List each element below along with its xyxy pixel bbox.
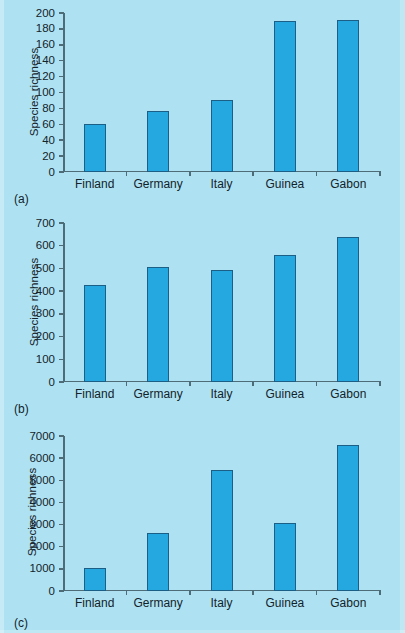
x-category-label-b-gabon: Gabon: [330, 388, 366, 400]
y-tick-b-3: [59, 313, 64, 315]
y-tick-label-c-7: 7000: [29, 430, 55, 442]
y-tick-a-2: [59, 139, 64, 141]
y-tick-label-a-4: 80: [42, 103, 55, 115]
bar-b-gabon: [337, 237, 359, 382]
x-category-label-a-guinea: Guinea: [266, 178, 305, 190]
x-category-label-c-gabon: Gabon: [330, 597, 366, 609]
x-tick-a-2: [252, 171, 254, 176]
y-tick-label-c-4: 4000: [29, 497, 55, 509]
x-category-label-a-germany: Germany: [133, 178, 182, 190]
x-category-label-c-germany: Germany: [133, 597, 182, 609]
y-tick-label-c-2: 2000: [29, 541, 55, 553]
x-tick-a-0: [126, 171, 128, 176]
y-tick-label-a-7: 140: [36, 55, 55, 67]
y-tick-b-4: [59, 290, 64, 292]
y-tick-label-c-5: 5000: [29, 475, 55, 487]
bar-a-italy: [211, 100, 233, 172]
y-tick-b-0: [59, 381, 64, 383]
figure-species-richness: Species richness 02040608010012014016018…: [0, 0, 405, 633]
y-tick-label-a-8: 160: [36, 39, 55, 51]
y-tick-label-a-3: 60: [42, 119, 55, 131]
x-tick-b-1: [189, 381, 191, 386]
y-tick-label-a-1: 20: [42, 150, 55, 162]
x-tick-b-4: [379, 381, 381, 386]
bar-c-finland: [84, 568, 106, 591]
y-tick-c-5: [59, 480, 64, 482]
y-tick-b-7: [59, 222, 64, 224]
panel-tag-b: (b): [14, 402, 29, 416]
chart-panel-a: Species richness 02040608010012014016018…: [0, 0, 405, 210]
x-category-label-b-germany: Germany: [133, 388, 182, 400]
bar-c-gabon: [337, 445, 359, 591]
y-tick-a-8: [59, 44, 64, 46]
y-tick-c-2: [59, 546, 64, 548]
x-tick-c-2: [252, 590, 254, 595]
y-tick-label-a-9: 180: [36, 23, 55, 35]
y-tick-label-b-6: 600: [36, 240, 55, 252]
bar-c-guinea: [274, 523, 296, 591]
y-tick-b-1: [59, 359, 64, 361]
x-category-label-c-guinea: Guinea: [266, 597, 305, 609]
x-category-label-b-italy: Italy: [210, 388, 232, 400]
y-tick-label-c-6: 6000: [29, 452, 55, 464]
y-tick-label-a-5: 100: [36, 87, 55, 99]
y-tick-b-6: [59, 245, 64, 247]
y-tick-label-c-3: 3000: [29, 519, 55, 531]
y-tick-b-5: [59, 268, 64, 270]
bar-b-finland: [84, 285, 106, 382]
y-tick-c-4: [59, 502, 64, 504]
y-tick-a-1: [59, 155, 64, 157]
x-category-label-b-finland: Finland: [75, 388, 114, 400]
x-category-label-a-gabon: Gabon: [330, 178, 366, 190]
bar-a-guinea: [274, 21, 296, 172]
bar-c-italy: [211, 470, 233, 591]
plot-area-b: 0100200300400500600700FinlandGermanyItal…: [63, 223, 380, 382]
x-tick-c-3: [316, 590, 318, 595]
y-tick-label-a-6: 120: [36, 71, 55, 83]
x-category-label-a-finland: Finland: [75, 178, 114, 190]
bar-b-germany: [147, 267, 169, 382]
chart-panel-c: Species richness 01000200030004000500060…: [0, 420, 405, 633]
bar-c-germany: [147, 533, 169, 591]
y-tick-a-3: [59, 124, 64, 126]
y-tick-a-10: [59, 12, 64, 14]
y-tick-label-a-2: 40: [42, 134, 55, 146]
y-tick-b-2: [59, 336, 64, 338]
y-tick-c-3: [59, 524, 64, 526]
bar-a-finland: [84, 124, 106, 172]
x-category-label-c-italy: Italy: [210, 597, 232, 609]
x-tick-a-3: [316, 171, 318, 176]
chart-panel-b: Species richness 0100200300400500600700F…: [0, 210, 405, 420]
x-tick-a-1: [189, 171, 191, 176]
y-tick-label-c-1: 1000: [29, 563, 55, 575]
bar-a-germany: [147, 111, 169, 172]
y-tick-a-7: [59, 60, 64, 62]
y-tick-label-b-1: 100: [36, 354, 55, 366]
y-tick-c-7: [59, 435, 64, 437]
y-tick-a-9: [59, 28, 64, 30]
x-tick-b-2: [252, 381, 254, 386]
x-tick-b-0: [126, 381, 128, 386]
panel-tag-c: (c): [14, 616, 28, 630]
plot-area-a: 020406080100120140160180200FinlandGerman…: [63, 13, 380, 172]
x-tick-b-3: [316, 381, 318, 386]
x-tick-c-4: [379, 590, 381, 595]
bar-b-guinea: [274, 255, 296, 382]
y-tick-c-0: [59, 590, 64, 592]
axes-b: 0100200300400500600700FinlandGermanyItal…: [63, 223, 380, 382]
panel-tag-a: (a): [14, 192, 29, 206]
plot-area-c: 01000200030004000500060007000FinlandGerm…: [63, 436, 380, 591]
y-tick-label-b-3: 300: [36, 308, 55, 320]
y-tick-label-c-0: 0: [49, 585, 55, 597]
y-tick-label-b-4: 400: [36, 285, 55, 297]
y-tick-label-a-10: 200: [36, 7, 55, 19]
x-tick-a-4: [379, 171, 381, 176]
y-tick-a-5: [59, 92, 64, 94]
bar-b-italy: [211, 270, 233, 382]
axes-c: 01000200030004000500060007000FinlandGerm…: [63, 436, 380, 591]
bar-a-gabon: [337, 20, 359, 172]
x-tick-c-1: [189, 590, 191, 595]
y-tick-a-4: [59, 108, 64, 110]
x-category-label-c-finland: Finland: [75, 597, 114, 609]
y-tick-label-b-0: 0: [49, 376, 55, 388]
